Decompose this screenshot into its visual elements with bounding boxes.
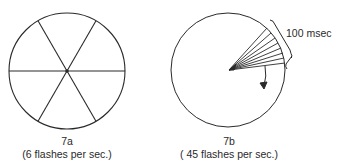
rotation-arrow-icon <box>260 82 267 89</box>
figure-7b-wheel <box>171 13 292 127</box>
figure-7a-caption: (6 flashes per sec.) <box>17 148 117 160</box>
flash-fan-lines <box>229 28 285 70</box>
wheel-circle-b <box>171 13 285 127</box>
duration-annotation: 100 msec <box>286 27 332 39</box>
figure-7b-label: 7b <box>189 135 269 147</box>
figure-7b-caption: ( 45 flashes per sec.) <box>179 148 279 160</box>
figure-7a-label: 7a <box>27 135 107 147</box>
figure-7a-wheel <box>9 13 125 129</box>
hub-dot-a <box>66 70 68 72</box>
